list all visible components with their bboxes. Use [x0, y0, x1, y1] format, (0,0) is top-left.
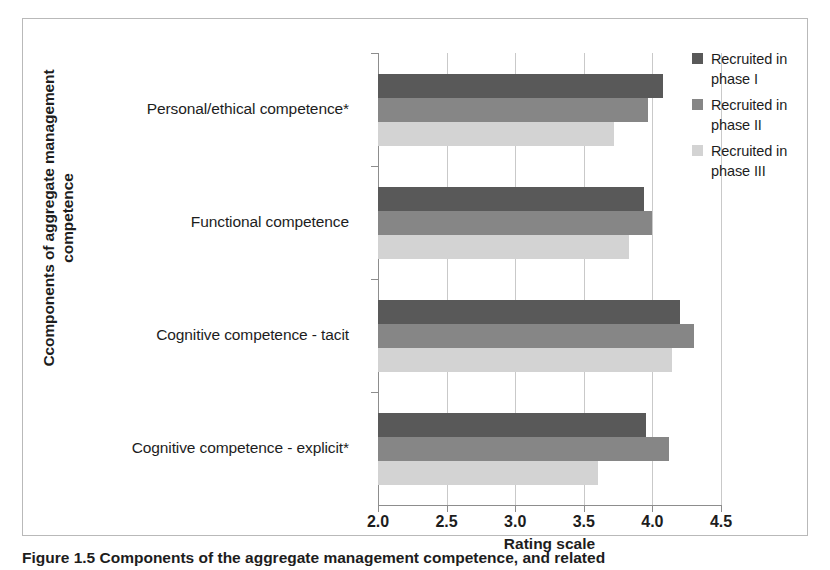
bar-1-1[interactable] — [378, 211, 652, 235]
x-axis-tick — [721, 505, 722, 512]
x-axis-tick-label: 4.5 — [696, 513, 746, 531]
figure-frame: Ccomponents of aggregate management comp… — [22, 18, 808, 536]
x-axis-tick — [652, 505, 653, 512]
bar-1-3[interactable] — [378, 437, 669, 461]
legend-label-line1: Recruited in — [711, 95, 826, 115]
bar-2-1[interactable] — [378, 235, 629, 259]
legend-label-line2: phase II — [711, 115, 826, 135]
figure-caption: Figure 1.5 Components of the aggregate m… — [22, 545, 822, 570]
legend-item[interactable]: Recruited inphase III — [691, 141, 826, 181]
category-tick — [371, 279, 378, 280]
x-axis-tick-label: 3.0 — [490, 513, 540, 531]
legend-item[interactable]: Recruited inphase II — [691, 95, 826, 135]
plot-area — [378, 53, 721, 505]
bar-0-0[interactable] — [378, 74, 663, 98]
x-axis-tick-label: 4.0 — [627, 513, 677, 531]
bar-2-0[interactable] — [378, 122, 614, 146]
x-axis-ticks — [378, 505, 721, 513]
category-label: Cognitive competence - tacit — [61, 326, 349, 344]
category-tick — [371, 392, 378, 393]
x-axis-tick-labels: 2.02.53.03.54.04.5 — [378, 513, 721, 535]
x-axis-tick — [447, 505, 448, 512]
y-axis-title-line1: Ccomponents of aggregate management — [40, 69, 57, 366]
legend-label-line1: Recruited in — [711, 49, 826, 69]
x-axis-tick-label: 2.0 — [353, 513, 403, 531]
bar-2-2[interactable] — [378, 348, 672, 372]
legend-label-line1: Recruited in — [711, 141, 826, 161]
x-axis-tick — [584, 505, 585, 512]
legend-item[interactable]: Recruited inphase I — [691, 49, 826, 89]
bar-0-2[interactable] — [378, 300, 680, 324]
x-axis-tick — [378, 505, 379, 512]
bar-1-0[interactable] — [378, 98, 648, 122]
category-axis-labels: Personal/ethical competence*Functional c… — [71, 53, 359, 505]
category-tick — [371, 53, 378, 54]
chart-legend: Recruited inphase IRecruited inphase IIR… — [691, 49, 826, 187]
legend-swatch-icon — [692, 99, 703, 110]
category-tick — [371, 166, 378, 167]
category-label: Functional competence — [61, 213, 349, 231]
legend-label-line2: phase III — [711, 161, 826, 181]
category-label: Personal/ethical competence* — [61, 100, 349, 118]
bar-0-1[interactable] — [378, 187, 644, 211]
x-axis-tick-label: 2.5 — [422, 513, 472, 531]
bar-0-3[interactable] — [378, 413, 646, 437]
bar-2-3[interactable] — [378, 461, 598, 485]
x-axis-tick-label: 3.5 — [559, 513, 609, 531]
legend-label-line2: phase I — [711, 69, 826, 89]
legend-swatch-icon — [692, 145, 703, 156]
category-label: Cognitive competence - explicit* — [61, 439, 349, 457]
legend-swatch-icon — [692, 53, 703, 64]
x-axis-tick — [515, 505, 516, 512]
bar-1-2[interactable] — [378, 324, 694, 348]
